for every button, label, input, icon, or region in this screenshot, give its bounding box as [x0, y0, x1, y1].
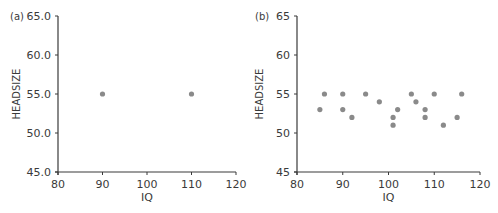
y-axis-label: HEADSIZE [254, 69, 265, 120]
data-point [441, 123, 446, 128]
y-tick-label: 55 [276, 88, 290, 101]
data-point [390, 123, 395, 128]
x-tick-label: 80 [51, 178, 65, 191]
data-point [432, 91, 437, 96]
data-point [455, 115, 460, 120]
data-point [377, 99, 382, 104]
data-point [413, 99, 418, 104]
data-point [317, 107, 322, 112]
x-tick-label: 120 [470, 178, 491, 191]
scatter-panel-a: 45.050.055.060.065.08090100110120(a)IQHE… [0, 0, 250, 213]
x-tick-label: 90 [96, 178, 110, 191]
y-axis-label: HEADSIZE [11, 69, 22, 120]
y-tick-label: 55.0 [27, 88, 52, 101]
y-tick-label: 45 [276, 166, 290, 179]
data-point [390, 115, 395, 120]
x-tick-label: 100 [137, 178, 158, 191]
y-tick-label: 60 [276, 49, 290, 62]
data-point [395, 107, 400, 112]
x-tick-label: 120 [226, 178, 247, 191]
data-point [189, 91, 194, 96]
x-tick-label: 80 [290, 178, 304, 191]
x-tick-label: 100 [378, 178, 399, 191]
y-tick-label: 45.0 [27, 166, 52, 179]
scatter-panel-b: 45505560658090100110120(b)IQHEADSIZE [250, 0, 498, 213]
x-axis-label: IQ [141, 191, 153, 204]
data-point [423, 107, 428, 112]
y-tick-label: 50 [276, 127, 290, 140]
x-tick-label: 110 [424, 178, 445, 191]
data-point [340, 107, 345, 112]
data-point [423, 115, 428, 120]
y-tick-label: 50.0 [27, 127, 52, 140]
y-tick-label: 65 [276, 10, 290, 23]
data-point [340, 91, 345, 96]
x-axis-label: IQ [383, 191, 395, 204]
panel-label: (a) [10, 11, 24, 22]
scatter-plot-a: 45.050.055.060.065.08090100110120(a)IQHE… [0, 0, 250, 213]
y-tick-label: 60.0 [27, 49, 52, 62]
scatter-plot-b: 45505560658090100110120(b)IQHEADSIZE [250, 0, 498, 213]
y-tick-label: 65.0 [27, 10, 52, 23]
data-point [100, 91, 105, 96]
panel-label: (b) [255, 11, 269, 22]
data-point [349, 115, 354, 120]
data-point [409, 91, 414, 96]
data-point [322, 91, 327, 96]
data-point [363, 91, 368, 96]
x-tick-label: 110 [181, 178, 202, 191]
x-tick-label: 90 [336, 178, 350, 191]
data-point [459, 91, 464, 96]
